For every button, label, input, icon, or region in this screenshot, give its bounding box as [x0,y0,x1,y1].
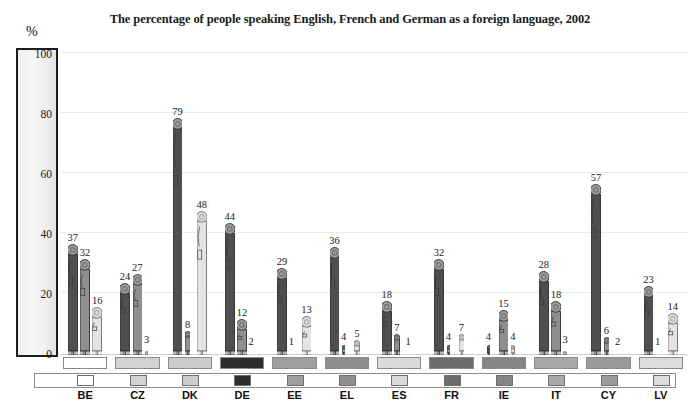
bar-cy-french: 6 [604,337,610,355]
bar-value-label: 18 [551,289,562,300]
bar-lv-german: 14 [668,313,678,355]
bar-value-label: 7 [459,322,464,333]
bar-group-el: 36 4 5 [322,48,374,355]
bar-group-ee: 29 1 13 [269,48,321,355]
country-band-it [534,357,578,369]
bar-dk-english: 79 [173,118,183,355]
legend-swatch-dk[interactable] [182,375,199,386]
bar-de-english: 44 [225,223,235,355]
bar-value-label: 29 [277,256,288,267]
bar-el-german: 5 [354,340,360,355]
bar-ie-english: 4 [487,343,491,355]
bar-value-label: 3 [144,334,149,345]
plot-area: 37 32 16 24 27 3 [60,48,688,355]
country-band-ee [272,357,316,369]
bar-group-ie: 4 15 4 [479,48,531,355]
bar-value-label: 44 [225,211,236,222]
bar-ie-french: 15 [499,310,509,355]
bar-value-label: 6 [604,325,609,336]
legend-swatch-ee[interactable] [287,375,304,386]
bar-de-french: 12 [237,319,247,355]
bar-es-german: 1 [406,348,410,355]
legend-swatch-cy[interactable] [601,375,618,386]
bar-value-label: 8 [185,319,190,330]
chart-root: The percentage of people speaking Englis… [0,0,692,410]
bar-group-be: 37 32 16 [60,48,112,355]
legend-swatch-fr[interactable] [444,375,461,386]
country-band-ie [482,357,526,369]
bar-value-label: 23 [643,274,654,285]
bar-be-french: 32 [80,259,90,355]
category-label-it: IT [551,389,561,401]
bar-lv-french: 1 [656,348,660,355]
bar-cz-english: 24 [120,283,130,355]
bar-fr-german: 7 [459,334,465,355]
bar-value-label: 32 [434,247,445,258]
y-axis-tick-60: 60 [41,168,53,180]
legend-swatch-ie[interactable] [496,375,513,386]
category-label-be: BE [78,389,93,401]
bar-ee-german: 13 [302,316,312,355]
bar-fr-french: 4 [447,343,451,355]
bar-value-label: 5 [354,328,359,339]
bar-value-label: 57 [591,172,602,183]
category-label-el: EL [340,389,354,401]
country-band-es [377,357,421,369]
legend-swatch-el[interactable] [339,375,356,386]
bar-value-label: 1 [406,336,411,347]
bar-ee-french: 1 [290,348,294,355]
legend-swatch-de[interactable] [234,375,251,386]
bar-it-french: 18 [551,301,561,355]
bar-value-label: 37 [68,232,79,243]
bar-cy-german: 2 [616,348,620,355]
category-label-fr: FR [444,389,459,401]
legend-swatch-lv[interactable] [653,375,670,386]
country-band-lv [639,357,683,369]
bar-de-german: 2 [249,348,253,355]
category-label-cz: CZ [130,389,145,401]
category-label-lv: LV [654,389,667,401]
bar-value-label: 27 [132,262,143,273]
bar-value-label: 4 [341,331,346,342]
category-label-es: ES [392,389,407,401]
bar-cz-french: 27 [133,274,143,355]
bar-fr-english: 32 [434,259,444,355]
y-axis-tick-40: 40 [41,228,53,240]
bar-it-german: 3 [563,346,567,355]
bar-value-label: 4 [486,331,491,342]
bar-value-label: 15 [498,298,509,309]
y-axis: 100806040200 [16,48,58,357]
category-label-ee: EE [287,389,302,401]
category-label-dk: DK [182,389,198,401]
category-label-cy: CY [601,389,616,401]
legend-swatch-it[interactable] [548,375,565,386]
bar-value-label: 18 [382,289,393,300]
bar-es-french: 7 [394,334,400,355]
bar-value-label: 28 [539,259,550,270]
bar-value-label: 1 [289,336,294,347]
y-axis-tick-80: 80 [41,108,53,120]
country-band-strip [60,357,688,369]
y-axis-unit-label: % [26,24,38,40]
bar-be-german: 16 [92,307,102,355]
category-label-de: DE [235,389,250,401]
bar-value-label: 48 [197,199,208,210]
country-band-cy [586,357,630,369]
bar-value-label: 2 [249,336,254,347]
bar-el-french: 4 [342,343,346,355]
country-band-de [220,357,264,369]
country-band-fr [429,357,473,369]
legend-swatch-es[interactable] [391,375,408,386]
bar-group-lv: 23 1 14 [636,48,688,355]
bar-value-label: 7 [394,322,399,333]
bar-value-label: 12 [237,307,248,318]
bar-es-english: 18 [382,301,392,355]
legend-swatch-be[interactable] [77,375,94,386]
legend-swatch-cz[interactable] [130,375,147,386]
bar-group-cz: 24 27 3 [112,48,164,355]
country-band-cz [115,357,159,369]
bar-value-label: 4 [510,331,515,342]
bar-cy-english: 57 [591,184,601,355]
bar-cz-german: 3 [145,346,149,355]
bar-group-dk: 79 8 48 [165,48,217,355]
